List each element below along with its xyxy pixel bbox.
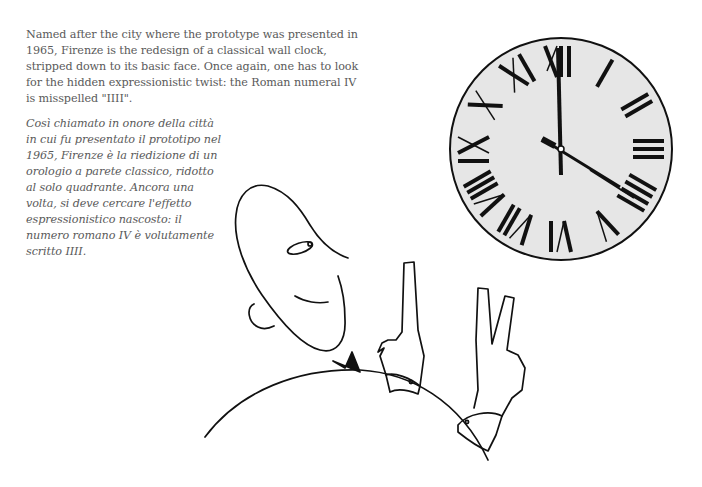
illustration: [0, 0, 702, 487]
man-figure: [205, 185, 525, 460]
left-hand: [378, 262, 424, 386]
right-hand: [474, 288, 525, 416]
body: [205, 370, 488, 460]
wall-clock: [450, 38, 672, 260]
mouth: [295, 296, 328, 303]
head: [236, 185, 348, 350]
bow-tie: [333, 352, 360, 372]
